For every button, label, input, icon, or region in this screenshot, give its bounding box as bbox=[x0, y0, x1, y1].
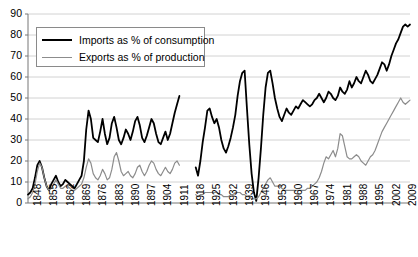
series-line-imports bbox=[28, 96, 179, 195]
x-tick-label: 1904 bbox=[162, 184, 173, 206]
x-tick-label: 1974 bbox=[325, 184, 336, 206]
x-tick-label: 1862 bbox=[65, 184, 76, 206]
x-tick-label: 1946 bbox=[260, 184, 271, 206]
x-tick-label: 1876 bbox=[97, 184, 108, 206]
legend-label-imports: Imports as % of consumption bbox=[79, 34, 214, 46]
y-tick-label: 10 bbox=[0, 175, 22, 187]
y-tick-label: 60 bbox=[0, 70, 22, 82]
y-tick-label: 90 bbox=[0, 7, 22, 19]
x-tick-label: 1995 bbox=[374, 184, 385, 206]
chart-legend: Imports as % of consumption Exports as %… bbox=[36, 27, 205, 67]
x-tick-label: 1988 bbox=[358, 184, 369, 206]
y-tick-label: 50 bbox=[0, 91, 22, 103]
x-tick-label: 1869 bbox=[81, 184, 92, 206]
x-tick-label: 1981 bbox=[342, 184, 353, 206]
x-tick-label: 1855 bbox=[48, 184, 59, 206]
y-tick-label: 70 bbox=[0, 49, 22, 61]
x-tick-label: 1918 bbox=[195, 184, 206, 206]
x-tick-label: 1960 bbox=[293, 184, 304, 206]
x-tick-label: 1939 bbox=[244, 184, 255, 206]
legend-label-exports: Exports as % of production bbox=[79, 51, 204, 63]
x-tick-label: 1890 bbox=[130, 184, 141, 206]
x-tick-label: 1911 bbox=[179, 184, 190, 206]
x-tick-label: 1953 bbox=[277, 184, 288, 206]
series-line-imports bbox=[196, 25, 410, 201]
legend-swatch-exports bbox=[42, 57, 72, 58]
x-tick-label: 1897 bbox=[146, 184, 157, 206]
x-tick-label: 2009 bbox=[407, 184, 418, 206]
legend-swatch-imports bbox=[42, 39, 72, 41]
y-tick-label: 30 bbox=[0, 133, 22, 145]
x-tick-label: 1925 bbox=[211, 184, 222, 206]
x-tick-label: 1848 bbox=[32, 184, 43, 206]
y-tick-label: 80 bbox=[0, 28, 22, 40]
y-tick-label: 0 bbox=[0, 196, 22, 208]
y-tick-label: 40 bbox=[0, 112, 22, 124]
x-tick-label: 1967 bbox=[309, 184, 320, 206]
x-tick-label: 1932 bbox=[228, 184, 239, 206]
legend-entry-imports: Imports as % of consumption bbox=[42, 31, 214, 49]
x-tick-label: 1883 bbox=[114, 184, 125, 206]
x-tick-label: 2002 bbox=[391, 184, 402, 206]
y-tick-label: 20 bbox=[0, 154, 22, 166]
legend-entry-exports: Exports as % of production bbox=[42, 48, 204, 66]
